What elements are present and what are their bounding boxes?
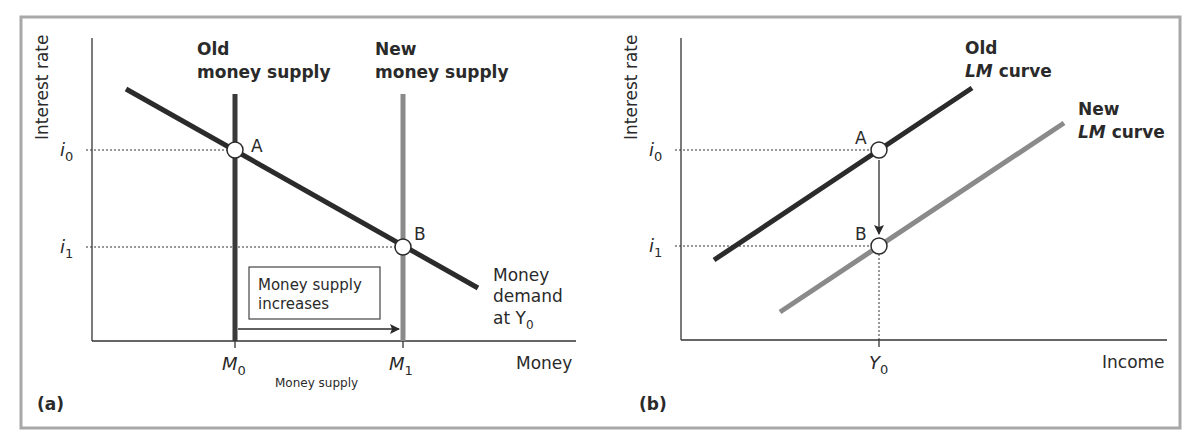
panel-b-tag: (b) (639, 394, 667, 414)
point-a-label: A (251, 136, 263, 156)
point-a-marker (871, 142, 887, 158)
point-a-marker (227, 142, 243, 158)
x-axis-label: Money (516, 353, 572, 373)
point-b-marker (871, 238, 887, 254)
x-axis-label: Income (1102, 352, 1165, 372)
figure: Interest rate i0 i1 M0 M1 Money Money su… (0, 0, 1195, 444)
point-b-label: B (414, 224, 426, 244)
point-b-label: B (855, 224, 867, 244)
y-axis-label: Interest rate (621, 35, 641, 140)
point-a-label: A (855, 128, 867, 148)
point-b-marker (395, 239, 411, 255)
y-axis-label: Interest rate (32, 35, 52, 140)
panel-a-tag: (a) (37, 394, 64, 414)
x-sublabel: Money supply (275, 376, 358, 390)
